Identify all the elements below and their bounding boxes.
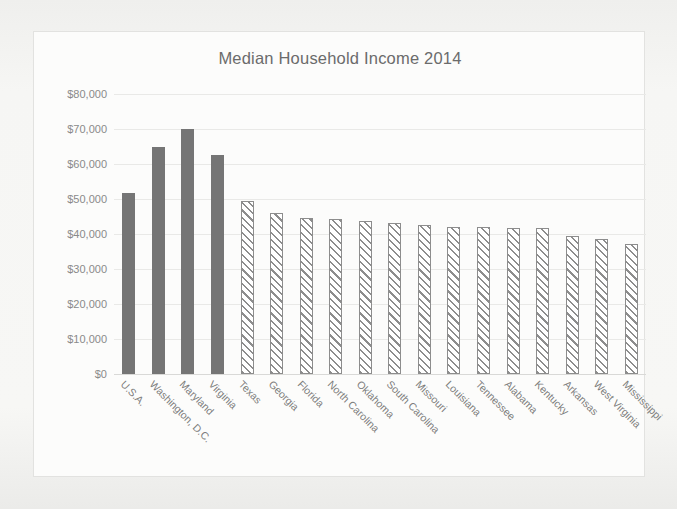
bar[interactable] bbox=[418, 225, 431, 374]
x-axis-label-slot: North Carolina bbox=[321, 376, 351, 471]
x-axis-label-slot: Florida bbox=[291, 376, 321, 471]
x-axis-label-slot: Louisiana bbox=[439, 376, 469, 471]
bar[interactable] bbox=[181, 129, 194, 374]
y-axis-tick-label: $40,000 bbox=[67, 228, 107, 240]
bar[interactable] bbox=[122, 193, 135, 374]
x-axis-label-slot: Missouri bbox=[410, 376, 440, 471]
bar[interactable] bbox=[270, 213, 283, 374]
bar-slot bbox=[380, 94, 410, 374]
bar[interactable] bbox=[300, 218, 313, 374]
bar-slot bbox=[232, 94, 262, 374]
bar[interactable] bbox=[359, 221, 372, 374]
x-axis-label-slot: Mississippi bbox=[617, 376, 647, 471]
bar[interactable] bbox=[507, 228, 520, 374]
bar[interactable] bbox=[241, 201, 254, 374]
bar[interactable] bbox=[536, 228, 549, 374]
x-axis-label-slot: South Carolina bbox=[380, 376, 410, 471]
x-axis-label-slot: Alabama bbox=[498, 376, 528, 471]
bar-slot bbox=[469, 94, 499, 374]
bar-slot bbox=[321, 94, 351, 374]
x-axis-labels-group: U.S.A.Washington, D.C.MarylandVirginiaTe… bbox=[114, 376, 646, 471]
bar-slot bbox=[144, 94, 174, 374]
x-axis-label-slot: West Virginia bbox=[587, 376, 617, 471]
bar[interactable] bbox=[211, 155, 224, 374]
bar-slot bbox=[410, 94, 440, 374]
bar-slot bbox=[291, 94, 321, 374]
y-axis-tick-label: $50,000 bbox=[67, 193, 107, 205]
x-axis-tick-label: Texas bbox=[237, 378, 265, 406]
bar-slot bbox=[528, 94, 558, 374]
y-axis-tick-label: $10,000 bbox=[67, 333, 107, 345]
y-axis-tick-label: $60,000 bbox=[67, 158, 107, 170]
bar-slot bbox=[262, 94, 292, 374]
x-axis-label-slot: Kentucky bbox=[528, 376, 558, 471]
bar-slot bbox=[203, 94, 233, 374]
bar-slot bbox=[617, 94, 647, 374]
x-axis-label-slot: Georgia bbox=[262, 376, 292, 471]
bar[interactable] bbox=[388, 223, 401, 374]
y-axis-tick-label: $0 bbox=[95, 368, 107, 380]
x-axis-label-slot: Maryland bbox=[173, 376, 203, 471]
y-axis-tick-label: $80,000 bbox=[67, 88, 107, 100]
bar[interactable] bbox=[447, 227, 460, 374]
y-axis-tick-label: $70,000 bbox=[67, 123, 107, 135]
x-axis-tick-label: Mississippi bbox=[621, 378, 665, 422]
bar[interactable] bbox=[152, 147, 165, 375]
x-axis-label-slot: Oklahoma bbox=[351, 376, 381, 471]
bar-slot bbox=[114, 94, 144, 374]
y-axis-tick-label: $20,000 bbox=[67, 298, 107, 310]
gridline: $0 bbox=[114, 374, 646, 375]
bar-slot bbox=[439, 94, 469, 374]
bar[interactable] bbox=[329, 219, 342, 374]
bar-slot bbox=[173, 94, 203, 374]
x-axis-label-slot: U.S.A. bbox=[114, 376, 144, 471]
plot-area: $80,000$70,000$60,000$50,000$40,000$30,0… bbox=[114, 94, 646, 374]
bar[interactable] bbox=[595, 239, 608, 374]
bars-group bbox=[114, 94, 646, 374]
x-axis-label-slot: Washington, D.C. bbox=[144, 376, 174, 471]
page-canvas: Median Household Income 2014 $80,000$70,… bbox=[0, 0, 677, 509]
bar-slot bbox=[587, 94, 617, 374]
chart-title: Median Household Income 2014 bbox=[34, 49, 646, 68]
x-axis-label-slot: Tennessee bbox=[469, 376, 499, 471]
y-axis-tick-label: $30,000 bbox=[67, 263, 107, 275]
x-axis-label-slot: Texas bbox=[232, 376, 262, 471]
x-axis-label-slot: Virginia bbox=[203, 376, 233, 471]
bar-slot bbox=[498, 94, 528, 374]
bar[interactable] bbox=[625, 244, 638, 374]
x-axis-label-slot: Arkansas bbox=[557, 376, 587, 471]
bar-slot bbox=[557, 94, 587, 374]
chart-container: Median Household Income 2014 $80,000$70,… bbox=[33, 31, 645, 477]
bar[interactable] bbox=[566, 236, 579, 374]
bar-slot bbox=[351, 94, 381, 374]
bar[interactable] bbox=[477, 227, 490, 374]
